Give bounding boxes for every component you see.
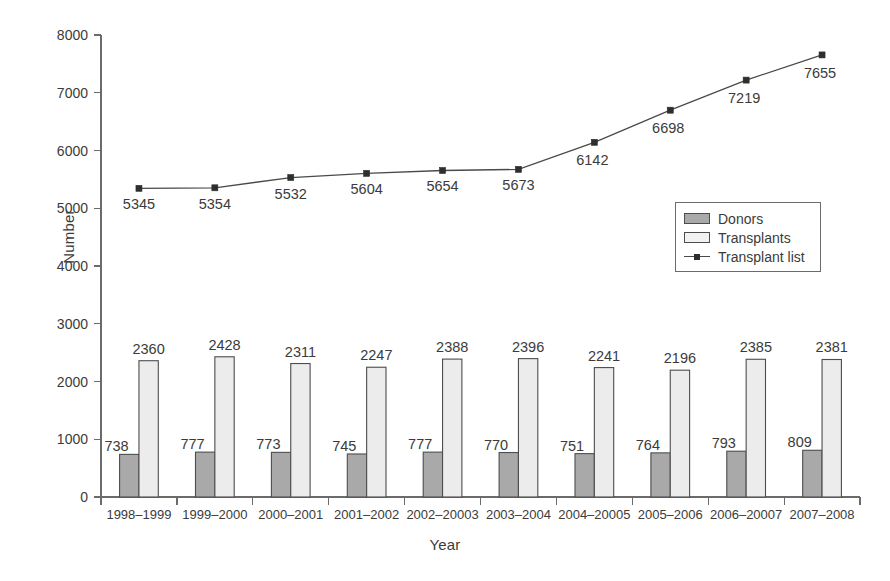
bar-transplants — [367, 367, 386, 497]
bar-donors — [423, 452, 442, 497]
bar-value-transplants: 2428 — [208, 337, 240, 353]
transplant-list-line-icon — [684, 251, 710, 262]
line-value-label: 6698 — [652, 120, 684, 136]
bar-value-transplants: 2385 — [740, 339, 772, 355]
legend-label-transplants: Transplants — [718, 231, 791, 245]
bar-value-transplants: 2381 — [816, 339, 848, 355]
bar-value-transplants: 2311 — [285, 344, 316, 360]
line-value-label: 7219 — [728, 90, 760, 106]
bar-donors — [347, 454, 366, 497]
bar-transplants — [139, 361, 158, 497]
bar-value-donors: 777 — [408, 436, 432, 452]
bar-donors — [271, 452, 290, 497]
bar-transplants — [215, 357, 234, 497]
bar-value-transplants: 2360 — [132, 341, 164, 357]
svg-text:5000: 5000 — [57, 200, 88, 216]
line-value-label: 5673 — [502, 177, 534, 193]
line-marker — [288, 175, 294, 181]
line-marker — [819, 52, 825, 58]
bar-value-donors: 777 — [180, 436, 204, 452]
chart-legend: Donors Transplants Transplant list — [675, 202, 821, 272]
bar-value-donors: 773 — [256, 436, 280, 452]
svg-text:1000: 1000 — [57, 431, 88, 447]
svg-text:4000: 4000 — [57, 258, 88, 274]
y-axis: 010002000300040005000600070008000 — [57, 27, 101, 505]
bar-donors — [195, 452, 214, 497]
line-marker — [440, 167, 446, 173]
line-marker — [136, 185, 142, 191]
line-marker — [364, 170, 370, 176]
bar-transplants — [594, 368, 613, 497]
bar-value-transplants: 2247 — [360, 347, 392, 363]
line-value-label: 5345 — [123, 196, 155, 212]
legend-item-transplants: Transplants — [684, 228, 820, 247]
legend-item-donors: Donors — [684, 209, 820, 228]
bar-transplants — [518, 359, 537, 497]
bar-series-group — [120, 357, 842, 497]
svg-text:2006–20007: 2006–20007 — [710, 507, 782, 522]
svg-text:3000: 3000 — [57, 316, 88, 332]
line-series-group — [136, 52, 825, 191]
bar-value-transplants: 2241 — [588, 348, 620, 364]
svg-text:2000: 2000 — [57, 374, 88, 390]
svg-text:2000–2001: 2000–2001 — [258, 507, 323, 522]
bar-transplants — [291, 364, 310, 497]
bar-value-donors: 770 — [484, 437, 508, 453]
svg-text:1999–2000: 1999–2000 — [182, 507, 247, 522]
svg-text:2002–20003: 2002–20003 — [406, 507, 478, 522]
bar-donors — [575, 454, 594, 497]
line-marker — [212, 185, 218, 191]
bar-value-donors: 809 — [788, 434, 812, 450]
line-marker — [743, 77, 749, 83]
legend-label-transplant-list: Transplant list — [718, 250, 805, 264]
bar-value-donors: 745 — [332, 438, 356, 454]
line-marker — [515, 166, 521, 172]
transplant-list-line — [139, 55, 822, 188]
line-marker — [667, 107, 673, 113]
svg-text:2003–2004: 2003–2004 — [486, 507, 551, 522]
bar-value-donors: 793 — [712, 435, 736, 451]
bar-value-donors: 751 — [560, 438, 584, 454]
bar-donors — [499, 453, 518, 497]
chart-figure: Number Year 0100020003000400050006000700… — [0, 0, 890, 581]
bar-value-donors: 738 — [104, 438, 128, 454]
svg-text:0: 0 — [80, 489, 88, 505]
legend-item-transplant-list: Transplant list — [684, 247, 820, 266]
transplants-swatch-icon — [684, 232, 710, 243]
bar-donors — [727, 451, 746, 497]
line-marker — [591, 139, 597, 145]
line-value-label: 5354 — [199, 196, 231, 212]
legend-label-donors: Donors — [718, 212, 763, 226]
bar-donors — [120, 454, 139, 497]
plot-area: 010002000300040005000600070008000 1998–1… — [0, 0, 890, 581]
svg-text:6000: 6000 — [57, 143, 88, 159]
line-value-label: 7655 — [804, 65, 836, 81]
line-value-label: 5604 — [351, 181, 383, 197]
bar-value-donors: 764 — [636, 437, 660, 453]
svg-text:8000: 8000 — [57, 27, 88, 43]
bar-transplants — [822, 359, 841, 497]
x-axis: 1998–19991999–20002000–20012001–20022002… — [101, 497, 860, 522]
bar-transplants — [746, 359, 765, 497]
line-value-label: 5532 — [275, 186, 307, 202]
bar-transplants — [443, 359, 462, 497]
bar-value-transplants: 2396 — [512, 339, 544, 355]
line-value-label: 5654 — [426, 178, 458, 194]
svg-text:2005–2006: 2005–2006 — [638, 507, 703, 522]
svg-text:1998–1999: 1998–1999 — [106, 507, 171, 522]
bar-donors — [803, 450, 822, 497]
svg-text:2004–20005: 2004–20005 — [558, 507, 630, 522]
bar-value-transplants: 2388 — [436, 339, 468, 355]
donors-swatch-icon — [684, 213, 710, 224]
svg-text:2007–2008: 2007–2008 — [790, 507, 855, 522]
bar-value-transplants: 2196 — [664, 350, 696, 366]
line-value-label: 6142 — [576, 152, 608, 168]
bar-transplants — [670, 370, 689, 497]
bar-donors — [651, 453, 670, 497]
svg-text:2001–2002: 2001–2002 — [334, 507, 399, 522]
svg-text:7000: 7000 — [57, 85, 88, 101]
